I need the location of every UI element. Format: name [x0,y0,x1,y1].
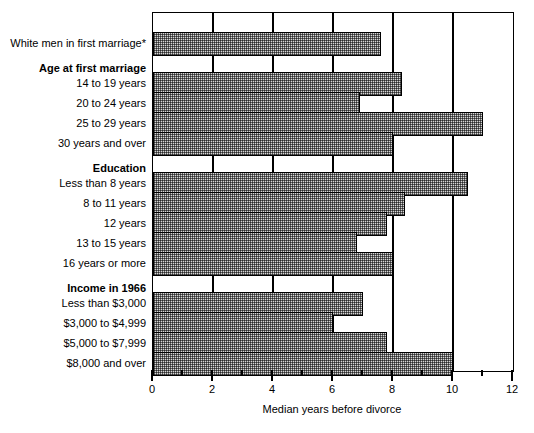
plot-inner [153,13,513,371]
x-tick-label-10: 10 [446,383,458,395]
bar-label: $5,000 to $7,999 [63,337,146,349]
bar-label: Less than $3,000 [62,297,146,309]
x-tick-label-6: 6 [329,383,335,395]
group-heading: Education [93,162,146,174]
x-tick-minor-7 [361,370,362,376]
bar-label: 20 to 24 years [76,97,146,109]
bar [153,32,381,56]
x-tick-major-12 [511,370,513,381]
bar-label: 30 years and over [58,137,146,149]
bar-label: 12 years [104,217,146,229]
bar-label: $8,000 and over [66,357,146,369]
x-tick-label-8: 8 [389,383,395,395]
median-years-before-divorce-chart: White men in first marriage*Age at first… [0,0,534,433]
bar [153,252,393,276]
plot-area [152,12,514,372]
bar-label: 25 to 29 years [76,117,146,129]
x-tick-minor-9 [421,370,422,376]
category-label-column: White men in first marriage*Age at first… [0,0,152,433]
bar-label: 14 to 19 years [76,77,146,89]
group-heading: Income in 1966 [67,282,146,294]
x-tick-major-6 [331,370,333,381]
bar-label: 8 to 11 years [83,197,146,209]
x-tick-major-8 [391,370,393,381]
bar-label: White men in first marriage* [10,37,146,49]
bar-label: 13 to 15 years [76,237,146,249]
x-tick-minor-3 [241,370,242,376]
x-tick-label-12: 12 [506,383,518,395]
x-axis: Median years before divorce 024681012 [152,370,512,433]
bar [153,132,393,156]
x-tick-minor-1 [181,370,182,376]
x-tick-label-2: 2 [209,383,215,395]
x-tick-major-10 [451,370,453,381]
x-tick-label-4: 4 [269,383,275,395]
x-tick-label-0: 0 [149,383,155,395]
bar-label: 16 years or more [63,257,146,269]
group-heading: Age at first marriage [39,62,146,74]
x-tick-minor-5 [301,370,302,376]
x-tick-major-2 [211,370,213,381]
x-tick-major-4 [271,370,273,381]
x-tick-major-0 [151,370,153,381]
bar-label: Less than 8 years [59,177,146,189]
bar-label: $3,000 to $4,999 [63,317,146,329]
x-tick-minor-11 [481,370,482,376]
x-axis-title: Median years before divorce [152,403,512,415]
